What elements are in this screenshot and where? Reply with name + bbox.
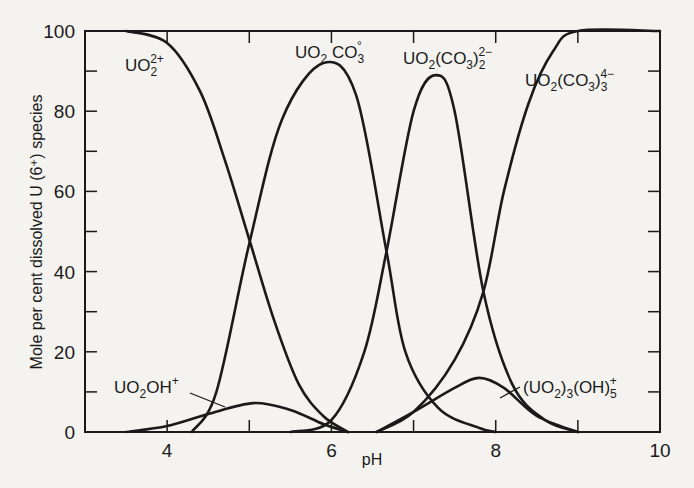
x-tick-label: 10 (649, 440, 670, 461)
curve-uo2-2 (126, 31, 348, 432)
y-tick-label: 0 (64, 422, 75, 443)
x-axis-title: pH (362, 451, 382, 468)
x-tick-label: 8 (490, 440, 501, 461)
axis-ticks (85, 31, 660, 432)
uo2oh-leader-line (190, 393, 225, 407)
y-tick-label: 100 (43, 21, 75, 42)
plot-frame (85, 31, 660, 432)
y-axis-title: Mole per cent dissolved U (6⁺) species (28, 95, 45, 370)
curve-uo2co3 (192, 62, 496, 432)
label-uo2co3-2: UO2(CO3)22− (403, 45, 492, 72)
y-tick-label: 80 (54, 101, 75, 122)
speciation-chart: 46810020406080100 UO22+ UO2 CO3° UO2(CO3… (0, 0, 694, 488)
label-uo2oh-plus: UO2OH+ (114, 374, 179, 401)
curve-uo2-co3-3-4 (377, 30, 660, 432)
y-tick-label: 40 (54, 262, 75, 283)
label-uo2co3-3: UO2(CO3)34− (525, 67, 614, 94)
label-uo2co3: UO2 CO3° (295, 39, 364, 66)
x-tick-label: 4 (162, 440, 173, 461)
y-tick-label: 20 (54, 342, 75, 363)
label-uo2-2plus: UO22+ (125, 52, 164, 79)
x-tick-label: 6 (326, 440, 337, 461)
label-uo2-3-oh-5-plus: (UO2)3(OH)5+ (523, 374, 617, 401)
y-tick-label: 60 (54, 181, 75, 202)
